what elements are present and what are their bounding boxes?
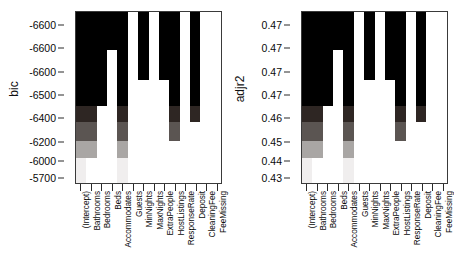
heatmap-cell <box>406 122 416 141</box>
heatmap-cell <box>395 50 405 65</box>
heatmap-cell <box>323 122 333 141</box>
heatmap-cell <box>117 158 127 183</box>
heatmap-cell <box>107 158 117 183</box>
heatmap-cell <box>343 12 353 37</box>
heatmap-cell <box>302 50 312 65</box>
heatmap-cell <box>149 106 159 122</box>
x-tick-mark <box>422 184 423 191</box>
heatmap-cell <box>190 66 200 81</box>
heatmap-cell <box>323 158 333 183</box>
heatmap-cell <box>406 141 416 158</box>
heatmap-cell <box>190 50 200 65</box>
heatmap-cell <box>395 66 405 81</box>
y-tick-label: 0.47 <box>262 66 282 78</box>
heatmap-cell <box>128 141 138 158</box>
heatmap-cell <box>406 37 416 51</box>
heatmap-cell <box>312 122 322 141</box>
heatmap-cell <box>76 158 86 183</box>
heatmap-cell <box>416 37 426 51</box>
heatmap-cell <box>437 141 447 158</box>
heatmap-row <box>302 158 447 183</box>
heatmap-cell <box>211 122 221 141</box>
heatmap-cell <box>97 12 107 37</box>
x-tick-label: MinNights <box>146 191 154 227</box>
x-tick-label: HostListings <box>178 191 186 236</box>
heatmap-cell <box>200 122 210 141</box>
x-tick-label: (Intercept) <box>83 191 91 228</box>
heatmap-row <box>76 50 221 65</box>
heatmap-cell <box>437 12 447 37</box>
heatmap-cell <box>395 141 405 158</box>
x-tick-label: ResponseRate <box>414 191 422 245</box>
y-tick-mark <box>284 141 290 142</box>
x-tick-label: Accommodates <box>351 191 359 247</box>
heatmap-cell <box>312 106 322 122</box>
heatmap-cell <box>343 37 353 51</box>
heatmap-cell <box>406 50 416 65</box>
x-tick-label: Guests <box>136 191 144 217</box>
heatmap-cell <box>312 50 322 65</box>
heatmap-cell <box>333 158 343 183</box>
heatmap-cell <box>437 122 447 141</box>
heatmap-cell <box>416 141 426 158</box>
heatmap-cell <box>159 66 169 81</box>
heatmap-cell <box>190 122 200 141</box>
heatmap-cell <box>159 141 169 158</box>
heatmap-cell <box>312 80 322 106</box>
x-tick-label: Deposit <box>199 191 207 219</box>
heatmap-cell <box>117 66 127 81</box>
x-tick-mark <box>338 184 339 191</box>
x-tick-mark <box>443 184 444 191</box>
heatmap-cell <box>385 141 395 158</box>
x-tick-label: Bathrooms <box>320 191 328 231</box>
y-tick-label: 0.46 <box>262 112 282 124</box>
heatmap-cell <box>169 50 179 65</box>
y-tick-mark <box>284 24 290 25</box>
heatmap-cell <box>169 37 179 51</box>
heatmap-row <box>76 37 221 51</box>
heatmap-cell <box>128 158 138 183</box>
heatmap-cell <box>364 158 374 183</box>
heatmap-cell <box>200 37 210 51</box>
x-tick-mark <box>217 184 218 191</box>
x-tick-mark <box>154 184 155 191</box>
heatmap-cell <box>97 80 107 106</box>
heatmap-cell <box>149 141 159 158</box>
heatmap-cell <box>138 158 148 183</box>
heatmap-cell <box>354 12 364 37</box>
heatmap-cell <box>200 158 210 183</box>
heatmap-cell <box>190 141 200 158</box>
heatmap-cell <box>211 106 221 122</box>
x-tick-label: CleaningFee <box>435 191 443 237</box>
heatmap-row <box>302 122 447 141</box>
heatmap-cell <box>312 66 322 81</box>
heatmap-cell <box>364 106 374 122</box>
x-tick-mark <box>133 184 134 191</box>
heatmap-cell <box>395 12 405 37</box>
heatmap-cell <box>107 80 117 106</box>
heatmap-cell <box>385 66 395 81</box>
heatmap-cell <box>97 37 107 51</box>
x-tick-mark <box>80 184 81 191</box>
heatmap-cell <box>149 80 159 106</box>
heatmap-cell <box>375 106 385 122</box>
heatmap-cell <box>437 37 447 51</box>
y-tick-label: 0.47 <box>262 42 282 54</box>
heatmap-cell <box>364 37 374 51</box>
heatmap-cell <box>190 106 200 122</box>
heatmap-cell <box>364 50 374 65</box>
x-axis-labels-bic: (Intercept)BathroomsBedroomsBedsAccommod… <box>75 191 222 261</box>
x-tick-mark <box>101 184 102 191</box>
y-tick-label: 0.47 <box>262 89 282 101</box>
heatmap-row <box>302 50 447 65</box>
y-tick-mark <box>58 160 64 161</box>
heatmap-cell <box>323 106 333 122</box>
x-tick-label: ResponseRate <box>188 191 196 245</box>
heatmap-cell <box>416 50 426 65</box>
heatmap-cell <box>385 158 395 183</box>
heatmap-row <box>76 12 221 37</box>
x-tick-mark <box>196 184 197 191</box>
x-tick-mark <box>122 184 123 191</box>
heatmap-cell <box>180 80 190 106</box>
heatmap-cell <box>426 106 436 122</box>
